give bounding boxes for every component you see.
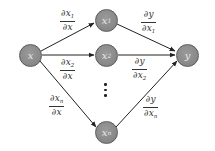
label-dy-dx2: ∂y ∂x2 bbox=[132, 57, 147, 81]
vertical-ellipsis bbox=[104, 83, 107, 97]
node-xn: xn bbox=[95, 121, 118, 144]
numerator: ∂y bbox=[143, 10, 155, 21]
label-dxn-dx: ∂xn ∂x bbox=[49, 94, 64, 118]
node-y-label: y bbox=[185, 51, 191, 61]
denominator: ∂x1 bbox=[141, 24, 156, 35]
node-x1: x1 bbox=[95, 9, 118, 32]
ellipsis-dot bbox=[104, 89, 107, 92]
ellipsis-dot bbox=[104, 94, 107, 97]
node-x2: x2 bbox=[95, 44, 118, 67]
numerator: ∂x1 bbox=[60, 9, 75, 20]
denominator: ∂x2 bbox=[132, 71, 147, 82]
label-dx1-dx: ∂x1 ∂x bbox=[60, 9, 75, 33]
label-dy-dx1: ∂y ∂x1 bbox=[141, 10, 156, 34]
denominator: ∂x bbox=[51, 108, 63, 119]
numerator: ∂y bbox=[134, 57, 146, 68]
node-x: x bbox=[19, 44, 42, 67]
denominator: ∂xn bbox=[143, 109, 158, 120]
label-dx2-dx: ∂x2 ∂x bbox=[60, 58, 75, 82]
ellipsis-dot bbox=[104, 83, 107, 86]
node-y: y bbox=[176, 44, 199, 67]
numerator: ∂y bbox=[145, 95, 157, 106]
numerator: ∂xn bbox=[49, 94, 64, 105]
denominator: ∂x bbox=[62, 72, 74, 83]
label-dy-dxn: ∂y ∂xn bbox=[143, 95, 158, 119]
denominator: ∂x bbox=[62, 23, 74, 34]
node-x-label: x bbox=[28, 51, 34, 61]
numerator: ∂x2 bbox=[60, 58, 75, 69]
